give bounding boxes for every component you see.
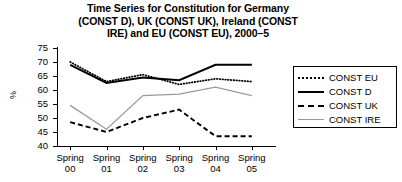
x-axis-line bbox=[57, 146, 276, 147]
legend-item-const-ire[interactable]: CONST IRE bbox=[298, 113, 393, 127]
y-axis-ticks: 7570656055504540 bbox=[26, 0, 48, 182]
y-tick-label: 50 bbox=[28, 113, 48, 123]
legend-label: CONST EU bbox=[329, 73, 378, 83]
chart-title: Time Series for Constitution for Germany… bbox=[32, 2, 344, 40]
x-tick-mark bbox=[216, 146, 217, 150]
y-tick-mark bbox=[53, 76, 57, 77]
legend-label: CONST UK bbox=[329, 101, 378, 111]
series-line-const-ire bbox=[70, 87, 252, 129]
legend-item-const-d[interactable]: CONST D bbox=[298, 85, 393, 99]
y-tick-mark bbox=[53, 146, 57, 147]
x-tick-mark bbox=[70, 146, 71, 150]
chart-title-line-2: (CONST D), UK (CONST UK), Ireland (CONST bbox=[78, 15, 297, 27]
x-tick-label-line-1: Spring bbox=[129, 152, 156, 163]
y-tick-label: 70 bbox=[28, 57, 48, 67]
legend-item-const-uk[interactable]: CONST UK bbox=[298, 99, 393, 113]
y-tick-mark bbox=[53, 118, 57, 119]
y-tick-mark bbox=[53, 62, 57, 63]
x-tick-mark bbox=[252, 146, 253, 150]
y-tick-mark bbox=[53, 90, 57, 91]
x-tick-label: Spring05 bbox=[230, 152, 274, 174]
y-tick-label: 45 bbox=[28, 127, 48, 137]
y-tick-label: 65 bbox=[28, 71, 48, 81]
x-tick-mark bbox=[143, 146, 144, 150]
x-tick-label-line-2: 05 bbox=[230, 163, 274, 174]
x-tick-label-line-1: Spring bbox=[238, 152, 265, 163]
x-tick-label-line-1: Spring bbox=[165, 152, 192, 163]
y-tick-label: 55 bbox=[28, 99, 48, 109]
x-tick-mark bbox=[179, 146, 180, 150]
legend-label: CONST D bbox=[329, 87, 372, 97]
y-tick-label: 60 bbox=[28, 85, 48, 95]
x-tick-label-line-1: Spring bbox=[93, 152, 120, 163]
series-line-const-d bbox=[70, 65, 252, 83]
y-axis-label: % bbox=[8, 91, 18, 99]
chart-title-line-1: Time Series for Constitution for Germany bbox=[87, 2, 289, 14]
x-tick-label-line-1: Spring bbox=[56, 152, 83, 163]
x-tick-label-line-1: Spring bbox=[202, 152, 229, 163]
chart-title-line-3: IRE) and EU (CONST EU), 2000–5 bbox=[107, 27, 269, 39]
y-tick-label: 75 bbox=[28, 43, 48, 53]
legend-item-const-eu[interactable]: CONST EU bbox=[298, 71, 393, 85]
plot-area bbox=[57, 48, 275, 146]
y-tick-mark bbox=[53, 104, 57, 105]
y-tick-label: 40 bbox=[28, 141, 48, 151]
y-tick-mark bbox=[53, 48, 57, 49]
chart-container: Time Series for Constitution for Germany… bbox=[0, 0, 402, 182]
chart-legend: CONST EUCONST DCONST UKCONST IRE bbox=[293, 66, 397, 128]
y-tick-mark bbox=[53, 132, 57, 133]
series-lines bbox=[57, 48, 275, 146]
x-tick-mark bbox=[107, 146, 108, 150]
legend-label: CONST IRE bbox=[329, 115, 381, 125]
